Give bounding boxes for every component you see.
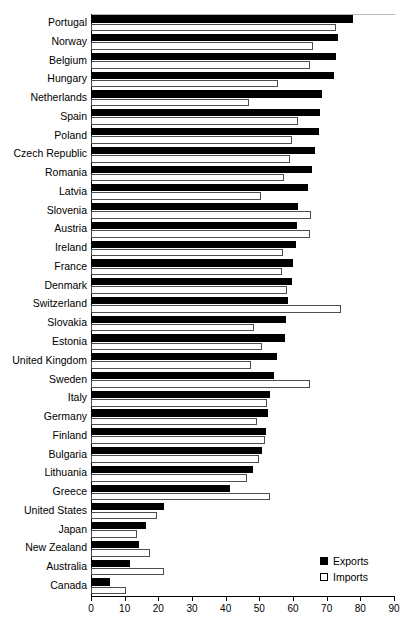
- category-label-lithuania: Lithuania: [44, 466, 87, 479]
- category-label-estonia: Estonia: [52, 335, 87, 348]
- bar-exports: [91, 447, 262, 454]
- category-label-belgium: Belgium: [49, 54, 87, 67]
- bar-exports: [91, 203, 298, 210]
- bar-imports: [91, 549, 150, 557]
- legend-label-imports: Imports: [333, 569, 368, 585]
- bar-group: [91, 277, 409, 296]
- bar-row: Portugal: [0, 14, 409, 33]
- bar-row: Poland: [0, 127, 409, 146]
- bar-group: [91, 33, 409, 52]
- category-label-slovenia: Slovenia: [47, 204, 87, 217]
- category-label-hungary: Hungary: [47, 72, 87, 85]
- horizontal-bar-chart: PortugalNorwayBelgiumHungaryNetherlandsS…: [0, 0, 409, 629]
- bar-group: [91, 89, 409, 108]
- bar-exports: [91, 297, 288, 304]
- bar-imports: [91, 587, 126, 595]
- bar-row: Sweden: [0, 371, 409, 390]
- bar-row: Norway: [0, 33, 409, 52]
- bar-exports: [91, 409, 268, 416]
- bar-group: [91, 220, 409, 239]
- bar-row: France: [0, 258, 409, 277]
- bar-row: Spain: [0, 108, 409, 127]
- bar-imports: [91, 474, 247, 482]
- legend-swatch-imports-icon: [320, 573, 328, 581]
- bar-imports: [91, 249, 283, 257]
- bar-exports: [91, 316, 286, 323]
- bar-group: [91, 408, 409, 427]
- bar-imports: [91, 361, 251, 369]
- x-tick-label-80: 80: [345, 603, 375, 615]
- bar-rows: PortugalNorwayBelgiumHungaryNetherlandsS…: [0, 14, 409, 596]
- bar-imports: [91, 155, 290, 163]
- x-tick-70: [327, 596, 328, 601]
- category-label-slovakia: Slovakia: [47, 316, 87, 329]
- bar-row: Hungary: [0, 70, 409, 89]
- bar-group: [91, 258, 409, 277]
- bar-row: Czech Republic: [0, 145, 409, 164]
- bar-exports: [91, 184, 308, 191]
- bar-exports: [91, 353, 277, 360]
- category-label-denmark: Denmark: [44, 279, 87, 292]
- bar-row: Slovenia: [0, 202, 409, 221]
- bar-imports: [91, 136, 292, 144]
- bar-imports: [91, 305, 341, 313]
- bar-row: Belgium: [0, 52, 409, 71]
- bar-imports: [91, 192, 261, 200]
- bar-exports: [91, 522, 146, 529]
- bar-exports: [91, 372, 274, 379]
- bar-group: [91, 70, 409, 89]
- bar-imports: [91, 24, 336, 32]
- bar-exports: [91, 166, 312, 173]
- bar-group: [91, 371, 409, 390]
- category-label-austria: Austria: [54, 222, 87, 235]
- bar-group: [91, 333, 409, 352]
- bar-group: [91, 145, 409, 164]
- bar-exports: [91, 147, 315, 154]
- x-tick-label-90: 90: [379, 603, 409, 615]
- x-tick-label-50: 50: [244, 603, 274, 615]
- bar-exports: [91, 278, 292, 285]
- bar-imports: [91, 343, 262, 351]
- bar-row: Estonia: [0, 333, 409, 352]
- bar-group: [91, 108, 409, 127]
- bar-exports: [91, 259, 293, 266]
- x-tick-label-70: 70: [312, 603, 342, 615]
- bar-imports: [91, 230, 310, 238]
- bar-exports: [91, 578, 110, 585]
- category-label-bulgaria: Bulgaria: [48, 448, 87, 461]
- x-tick-60: [293, 596, 294, 601]
- bar-group: [91, 164, 409, 183]
- bar-imports: [91, 99, 249, 107]
- bar-row: Slovakia: [0, 314, 409, 333]
- bar-imports: [91, 455, 259, 463]
- bar-imports: [91, 380, 310, 388]
- bar-exports: [91, 15, 353, 22]
- x-tick-10: [125, 596, 126, 601]
- x-tick-40: [226, 596, 227, 601]
- category-label-romania: Romania: [45, 166, 87, 179]
- bar-group: [91, 483, 409, 502]
- bar-group: [91, 239, 409, 258]
- x-tick-20: [158, 596, 159, 601]
- bar-row: Bulgaria: [0, 446, 409, 465]
- x-tick-0: [91, 596, 92, 601]
- bar-group: [91, 521, 409, 540]
- bar-group: [91, 314, 409, 333]
- bar-row: Switzerland: [0, 295, 409, 314]
- bar-group: [91, 202, 409, 221]
- category-label-spain: Spain: [60, 110, 87, 123]
- bar-imports: [91, 530, 137, 538]
- category-label-united-kingdom: United Kingdom: [12, 354, 87, 367]
- bar-imports: [91, 211, 311, 219]
- bar-exports: [91, 90, 322, 97]
- category-label-switzerland: Switzerland: [33, 297, 87, 310]
- bar-group: [91, 502, 409, 521]
- x-tick-label-30: 30: [177, 603, 207, 615]
- category-label-norway: Norway: [51, 35, 87, 48]
- category-label-poland: Poland: [54, 129, 87, 142]
- x-tick-label-10: 10: [110, 603, 140, 615]
- bar-imports: [91, 324, 254, 332]
- bar-exports: [91, 53, 336, 60]
- legend-swatch-exports-icon: [320, 557, 328, 565]
- bar-exports: [91, 109, 320, 116]
